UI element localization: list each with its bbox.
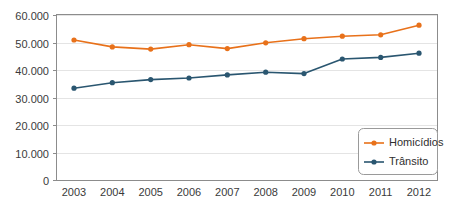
data-point (186, 75, 191, 80)
data-point (71, 37, 76, 42)
x-tick-label: 2004 (100, 186, 124, 198)
data-point (416, 51, 421, 56)
x-tick-label: 2011 (369, 186, 393, 198)
data-point (340, 56, 345, 61)
y-tick-label: 20.000 (15, 120, 49, 132)
data-point (263, 70, 268, 75)
data-point (148, 77, 153, 82)
data-point (110, 80, 115, 85)
data-point (225, 46, 230, 51)
data-point (225, 72, 230, 77)
y-tick-label: 50.000 (15, 38, 49, 50)
x-tick-label: 2012 (407, 186, 431, 198)
legend-label: Homicídios (389, 136, 444, 148)
x-tick-label: 2007 (215, 186, 239, 198)
y-tick-label: 40.000 (15, 65, 49, 77)
x-tick-label: 2006 (177, 186, 201, 198)
x-tick-label: 2008 (253, 186, 277, 198)
data-point (263, 40, 268, 45)
chart-canvas: 010.00020.00030.00040.00050.00060.000 20… (0, 0, 474, 213)
y-tick-label: 0 (43, 175, 49, 187)
legend-label: Trânsito (389, 155, 428, 167)
data-point (186, 42, 191, 47)
y-tick-label: 10.000 (15, 148, 49, 160)
chart-legend: HomicídiosTrânsito (359, 129, 444, 175)
data-point (71, 86, 76, 91)
y-tick-label: 60.000 (15, 10, 49, 22)
x-tick-label: 2009 (292, 186, 316, 198)
legend-swatch-marker (371, 140, 376, 145)
data-point (301, 71, 306, 76)
x-tick-label: 2005 (138, 186, 162, 198)
data-point (110, 44, 115, 49)
x-tick-label: 2010 (330, 186, 354, 198)
data-point (148, 47, 153, 52)
legend-swatch-marker (371, 159, 376, 164)
data-point (340, 34, 345, 39)
line-chart: 010.00020.00030.00040.00050.00060.000 20… (0, 0, 474, 213)
data-point (378, 55, 383, 60)
data-point (301, 36, 306, 41)
chart-background (0, 0, 474, 213)
data-point (378, 32, 383, 37)
data-point (416, 23, 421, 28)
x-tick-label: 2003 (62, 186, 86, 198)
y-tick-label: 30.000 (15, 93, 49, 105)
